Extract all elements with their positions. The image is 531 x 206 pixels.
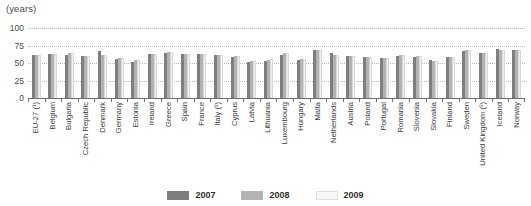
x-category-label: Norway	[513, 102, 521, 128]
x-category-cell: Lithuania	[260, 102, 277, 174]
bar	[352, 56, 355, 98]
x-category-cell: Malta	[310, 102, 327, 174]
x-category-label: Malta	[314, 102, 322, 121]
bar	[518, 50, 521, 98]
healthy-life-years-bar-chart: (years) 0255075100 EU-27 (¹)BelgiumBulga…	[0, 0, 531, 206]
bar-group	[492, 28, 509, 98]
x-category-cell: Cyprus	[227, 102, 244, 174]
bar	[38, 55, 41, 98]
x-category-cell: Germany	[111, 102, 128, 174]
x-category-label: Cyprus	[231, 102, 239, 126]
bar	[187, 54, 190, 98]
x-category-cell: Romania	[392, 102, 409, 174]
bar	[303, 59, 306, 98]
x-category-cell: Italy (²)	[210, 102, 227, 174]
x-category-cell: Slovenia	[409, 102, 426, 174]
bar	[203, 54, 206, 98]
x-category-cell: Belgium	[45, 102, 62, 174]
legend-label: 2009	[344, 190, 364, 200]
x-category-label: Finland	[447, 102, 455, 127]
bar	[87, 56, 90, 98]
bar-group	[392, 28, 409, 98]
bar	[253, 61, 256, 98]
x-category-label: Sweden	[463, 102, 471, 129]
bar-group	[475, 28, 492, 98]
x-category-label: Austria	[347, 102, 355, 126]
y-tick-label-25: 25	[15, 76, 24, 86]
x-category-label: Luxembourg	[281, 102, 289, 144]
bar	[319, 50, 322, 98]
y-axis-tick-labels: 0255075100	[0, 28, 24, 98]
y-tick-label-100: 100	[10, 23, 24, 33]
bar-group	[177, 28, 194, 98]
bar-group	[376, 28, 393, 98]
bar-group	[508, 28, 525, 98]
x-category-label: Denmark	[99, 102, 107, 133]
bar	[137, 60, 140, 98]
legend-swatch-icon	[316, 191, 338, 200]
x-category-cell: Iceland	[492, 102, 509, 174]
bar-group	[194, 28, 211, 98]
bar	[237, 56, 240, 98]
bar	[369, 57, 372, 98]
x-category-label: France	[198, 102, 206, 126]
bar-group	[210, 28, 227, 98]
x-category-label: Czech Republic	[82, 102, 90, 155]
bar-group	[78, 28, 95, 98]
x-category-cell: Denmark	[94, 102, 111, 174]
bar-group	[127, 28, 144, 98]
bar-group	[276, 28, 293, 98]
bar-group	[409, 28, 426, 98]
bar-group	[343, 28, 360, 98]
x-category-cell: Czech Republic	[78, 102, 95, 174]
plot-area	[28, 28, 525, 98]
bar-group	[293, 28, 310, 98]
legend-swatch-icon	[167, 191, 189, 200]
bar	[71, 53, 74, 99]
bar	[154, 54, 157, 98]
x-category-label: Portugal	[380, 102, 388, 130]
bar	[419, 56, 422, 98]
y-tick-label-0: 0	[19, 93, 24, 103]
x-category-cell: Finland	[442, 102, 459, 174]
x-category-cell: Norway	[508, 102, 525, 174]
bar	[502, 50, 505, 98]
x-category-cell: EU-27 (¹)	[28, 102, 45, 174]
legend-item-2007[interactable]: 2007	[167, 190, 215, 200]
x-category-label: Slovenia	[413, 102, 421, 131]
legend-item-2008[interactable]: 2008	[241, 190, 289, 200]
x-category-cell: Greece	[161, 102, 178, 174]
x-category-cell: Latvia	[243, 102, 260, 174]
legend-label: 2008	[269, 190, 289, 200]
x-category-label: Ireland	[148, 102, 156, 125]
bar	[485, 53, 488, 99]
x-category-cell: Poland	[359, 102, 376, 174]
x-category-label: Lithuania	[264, 102, 272, 133]
x-category-label: EU-27 (¹)	[32, 102, 40, 133]
bar-group	[227, 28, 244, 98]
bar-group	[61, 28, 78, 98]
x-category-label: Netherlands	[331, 102, 339, 143]
legend-label: 2007	[195, 190, 215, 200]
bar	[270, 59, 273, 98]
x-category-label: Poland	[364, 102, 372, 126]
x-category-cell: Spain	[177, 102, 194, 174]
x-category-label: United Kingdom (²)	[480, 102, 488, 166]
x-category-label: Belgium	[49, 102, 57, 129]
bar-group	[310, 28, 327, 98]
x-category-cell: Netherlands	[326, 102, 343, 174]
y-tick-label-50: 50	[15, 58, 24, 68]
x-category-label: Iceland	[496, 102, 504, 127]
bar	[121, 58, 124, 98]
bar-group	[144, 28, 161, 98]
bar-groups	[28, 28, 525, 98]
bar	[402, 55, 405, 98]
legend-item-2009[interactable]: 2009	[316, 190, 364, 200]
x-axis-category-labels: EU-27 (¹)BelgiumBulgariaCzech RepublicDe…	[28, 102, 525, 174]
bar-group	[459, 28, 476, 98]
x-category-cell: Portugal	[376, 102, 393, 174]
y-axis-unit-label: (years)	[6, 3, 36, 14]
bar-group	[243, 28, 260, 98]
bar	[286, 53, 289, 99]
bar	[452, 57, 455, 98]
